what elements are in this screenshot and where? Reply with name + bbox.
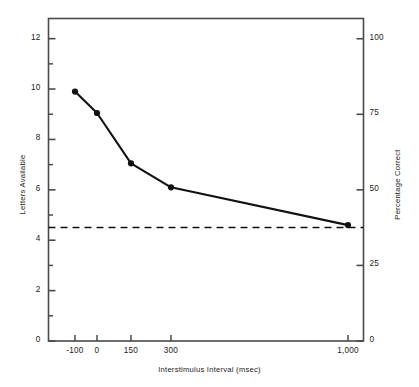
- y2-tick-label-25: 25: [370, 259, 400, 268]
- y-tick-label-0: 0: [11, 335, 41, 344]
- x-tick-label-150: 150: [109, 346, 153, 355]
- y-tick-label-6: 6: [11, 184, 41, 193]
- y2-tick-label-50: 50: [370, 184, 400, 193]
- y2-tick-label-75: 75: [370, 108, 400, 117]
- y-tick-label-4: 4: [11, 234, 41, 243]
- chart-figure: Letters Available Percentage Correct Int…: [0, 0, 419, 387]
- y-tick-label-12: 12: [11, 33, 41, 42]
- x-axis-title: Interstimulus Interval (msec): [0, 365, 419, 374]
- data-point-150: [128, 160, 134, 166]
- x-tick-label-1000: 1,000: [326, 346, 370, 355]
- x-tick-label-300: 300: [149, 346, 193, 355]
- y2-tick-label-100: 100: [370, 33, 400, 42]
- data-point-0: [94, 110, 100, 116]
- plot-area: [0, 0, 419, 387]
- y-tick-label-10: 10: [11, 83, 41, 92]
- y-tick-label-2: 2: [11, 285, 41, 294]
- data-point--100: [72, 88, 78, 94]
- y-tick-label-8: 8: [11, 133, 41, 142]
- data-point-300: [168, 184, 174, 190]
- data-point-1,000: [345, 222, 351, 228]
- y2-tick-label-0: 0: [370, 335, 400, 344]
- plot-frame: [49, 19, 364, 342]
